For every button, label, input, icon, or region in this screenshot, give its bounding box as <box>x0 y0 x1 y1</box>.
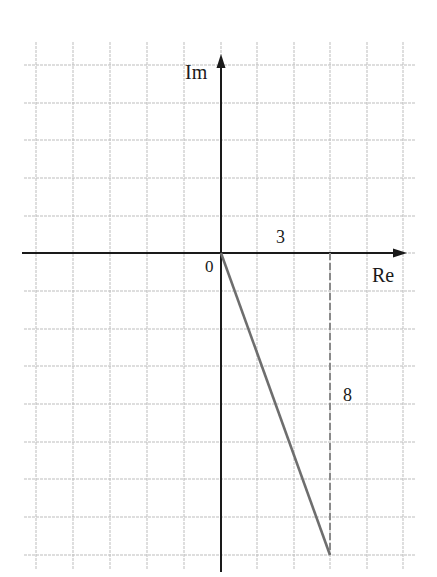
imag-part-label: 8 <box>343 385 352 405</box>
imaginary-axis-arrow-icon <box>217 54 226 68</box>
imaginary-axis-label: Im <box>185 61 208 83</box>
origin-label: 0 <box>205 257 214 276</box>
real-part-label: 3 <box>276 227 285 247</box>
real-axis-label: Re <box>372 264 394 286</box>
real-axis-arrow-icon <box>393 249 407 258</box>
complex-plane-diagram: Im Re 0 3 8 <box>0 0 437 577</box>
